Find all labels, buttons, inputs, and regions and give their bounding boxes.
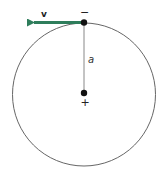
circular-motion-diagram: v − a + <box>0 0 165 180</box>
acceleration-label: a <box>88 54 94 65</box>
velocity-label: v <box>41 9 47 19</box>
top-charge-label: − <box>80 6 89 19</box>
top-charge-dot <box>81 19 87 25</box>
center-charge-label: + <box>81 96 90 109</box>
